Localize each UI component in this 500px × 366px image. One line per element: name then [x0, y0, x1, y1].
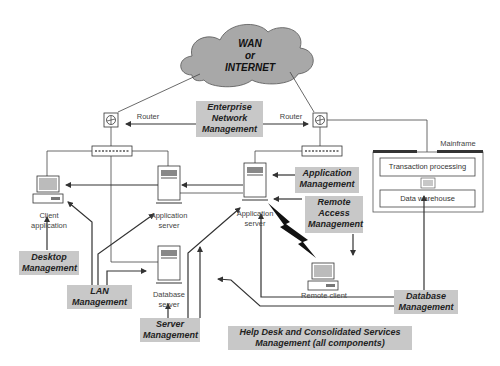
client-computer-icon: [33, 176, 63, 203]
cloud-line3: INTERNET: [222, 62, 278, 74]
app-server-right-label: Application server: [229, 209, 281, 229]
desktop-line2: Management: [22, 263, 76, 274]
cloud-line2: or: [222, 50, 278, 62]
router-left-icon: [104, 113, 118, 127]
helpdesk-line1: Help Desk and Consolidated Services: [231, 327, 409, 338]
app-server-right-line2: server: [229, 219, 281, 229]
database-management-box: Database Management: [394, 290, 458, 314]
server-arrows: [66, 175, 302, 199]
lan-line2: Management: [70, 297, 129, 308]
hub-left-icon: [92, 146, 132, 156]
helpdesk-management-box: Help Desk and Consolidated Services Mana…: [228, 326, 412, 350]
app-server-left-icon: [156, 166, 182, 203]
database-server-icon: [156, 246, 182, 283]
client-line1: Client: [24, 211, 74, 221]
remote-access-line2: Access: [308, 208, 360, 219]
database-server-label: Database server: [144, 290, 194, 310]
db-server-line2: server: [144, 300, 194, 310]
enterprise-line1: Enterprise: [199, 102, 260, 113]
helpdesk-line2: Management (all components): [231, 338, 409, 349]
lan-line1: LAN: [70, 286, 129, 297]
client-line2: application: [24, 221, 74, 231]
application-line2: Management: [298, 179, 356, 190]
enterprise-line3: Management: [199, 124, 260, 135]
app-server-left-line2: server: [143, 221, 195, 231]
app-server-left-label: Application server: [143, 211, 195, 231]
application-management-box: Application Management: [295, 167, 359, 193]
desktop-line1: Desktop: [22, 252, 76, 263]
cloud-line1: WAN: [222, 38, 278, 50]
remote-client-computer-icon: [308, 263, 338, 290]
mainframe-label: Mainframe: [434, 139, 482, 149]
remote-access-management-box: Remote Access Management: [305, 196, 363, 233]
lan-management-box: LAN Management: [67, 285, 132, 309]
app-server-right-icon: [242, 163, 268, 200]
server-line1: Server: [143, 319, 197, 330]
database-line2: Management: [397, 302, 455, 313]
wan-cloud-label: WAN or INTERNET: [222, 38, 278, 74]
desktop-management-box: Desktop Management: [19, 251, 79, 275]
router-right-icon: [313, 113, 327, 127]
remote-client-label: Remote client: [296, 291, 352, 301]
database-line1: Database: [397, 291, 455, 302]
application-line1: Application: [298, 168, 356, 179]
remote-access-line3: Management: [308, 219, 360, 230]
server-line2: Management: [143, 330, 197, 341]
db-server-line1: Database: [144, 290, 194, 300]
router-left-label: Router: [133, 112, 163, 122]
data-warehouse-label: Data warehouse: [380, 194, 475, 203]
router-right-label: Router: [276, 112, 306, 122]
enterprise-line2: Network: [199, 113, 260, 124]
app-server-left-line1: Application: [143, 211, 195, 221]
transaction-processing-label: Transaction processing: [380, 162, 475, 171]
hub-right-icon: [302, 146, 342, 156]
server-management-box: Server Management: [140, 318, 200, 342]
remote-access-line1: Remote: [308, 197, 360, 208]
app-server-right-line1: Application: [229, 209, 281, 219]
client-application-label: Client application: [24, 211, 74, 231]
enterprise-network-management-box: Enterprise Network Management: [196, 101, 263, 137]
